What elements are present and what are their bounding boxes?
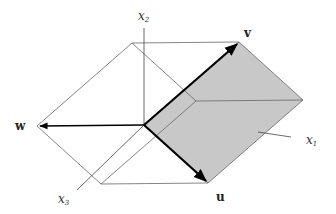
- label-w: w: [14, 119, 26, 133]
- label-v: v: [243, 26, 252, 40]
- label-x3: x3: [58, 192, 70, 207]
- shaded-face-uv: [144, 42, 303, 183]
- label-u: u: [216, 190, 225, 204]
- axis-x3: [77, 125, 144, 190]
- vector-w-arrow: [40, 125, 144, 126]
- parallelepiped-diagram: v u w x2 x1 x3: [0, 0, 336, 214]
- label-x2: x2: [138, 9, 150, 24]
- label-x1: x1: [306, 133, 317, 148]
